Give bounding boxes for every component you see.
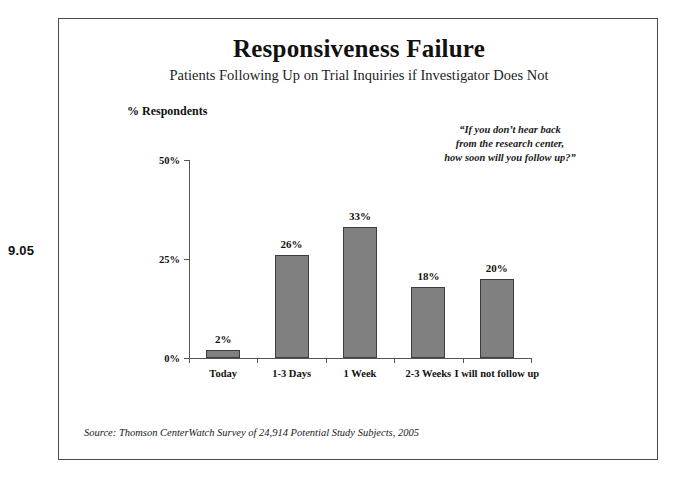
figure-number: 9.05 — [8, 243, 34, 258]
y-tick-mark — [184, 160, 189, 161]
x-tick-mark — [463, 358, 464, 363]
category-label: I will not follow up — [451, 367, 543, 380]
bar-value-label: 2% — [215, 333, 232, 345]
x-tick-mark — [394, 358, 395, 363]
chart-frame: Responsiveness Failure Patients Followin… — [58, 18, 658, 460]
source-note: Source: Thomson CenterWatch Survey of 24… — [84, 427, 419, 438]
bar-value-label: 18% — [417, 270, 439, 282]
callout-quote: “If you don’t hear back from the researc… — [430, 123, 590, 165]
callout-line-2: from the research center, — [430, 137, 590, 151]
bar — [343, 227, 377, 358]
y-axis-caption: % Respondents — [127, 104, 207, 119]
bar-value-label: 33% — [349, 210, 371, 222]
bar-value-label: 26% — [281, 238, 303, 250]
x-tick-mark — [531, 358, 532, 363]
y-tick-label: 25% — [159, 254, 180, 265]
bar — [411, 287, 445, 358]
bar-value-label: 20% — [486, 262, 508, 274]
bar — [275, 255, 309, 358]
x-axis-line — [189, 358, 531, 359]
x-tick-mark — [189, 358, 190, 363]
chart-subtitle: Patients Following Up on Trial Inquiries… — [59, 67, 659, 84]
y-axis-line — [189, 160, 190, 358]
y-tick-label: 0% — [164, 353, 180, 364]
y-tick-label: 50% — [159, 155, 180, 166]
x-tick-mark — [257, 358, 258, 363]
bar — [206, 350, 240, 358]
x-tick-mark — [326, 358, 327, 363]
callout-line-1: “If you don’t hear back — [430, 123, 590, 137]
y-tick-mark — [184, 259, 189, 260]
bar — [480, 279, 514, 358]
plot-area: 0%25%50% 2%26%33%18%20% Today1-3 Days1 W… — [189, 160, 531, 358]
chart-title: Responsiveness Failure — [59, 35, 659, 63]
